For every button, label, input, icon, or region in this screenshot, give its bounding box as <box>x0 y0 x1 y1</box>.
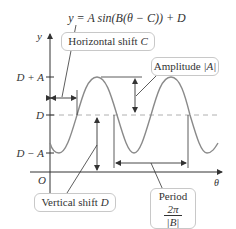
amplitude-callout: Amplitude |A| <box>151 57 219 76</box>
vertical-shift-leader <box>67 145 97 193</box>
period-numerator: 2π <box>164 203 182 216</box>
amplitude-text: Amplitude <box>154 60 204 72</box>
vertical-shift-callout: Vertical shift D <box>34 193 116 212</box>
tick-label-min: D − A <box>16 147 45 159</box>
period-denominator: |B| <box>151 216 195 228</box>
origin-label: O <box>38 174 46 186</box>
y-axis-label: y <box>36 30 42 42</box>
vertical-shift-text: Vertical shift <box>41 196 100 208</box>
x-axis-label: θ <box>214 177 219 188</box>
tick-label-mid: D <box>35 109 44 121</box>
amplitude-var: |A| <box>204 60 217 72</box>
equation-title: y = A sin(B(θ − C)) + D <box>67 11 186 25</box>
tick-label-max: D + A <box>16 71 45 83</box>
horizontal-shift-callout: Horizontal shift C <box>61 32 155 51</box>
period-leader <box>151 163 163 190</box>
period-callout: Period 2π |B| <box>150 188 196 229</box>
vertical-shift-var: D <box>101 196 109 208</box>
period-text: Period <box>151 190 195 203</box>
horizontal-shift-text: Horizontal shift <box>68 35 140 47</box>
horizontal-shift-var: C <box>140 35 147 47</box>
